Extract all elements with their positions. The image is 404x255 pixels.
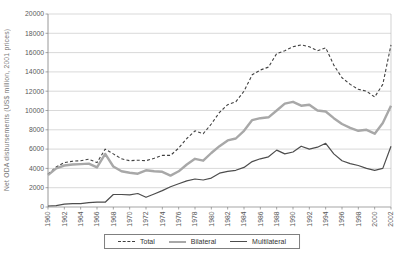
y-tick-label: 6000 bbox=[29, 145, 44, 152]
series-line-total bbox=[48, 45, 391, 174]
x-tick-label: 1976 bbox=[175, 211, 182, 226]
y-tick-label: 14000 bbox=[25, 68, 44, 75]
y-tick-label: 4000 bbox=[29, 165, 44, 172]
x-tick-label: 1984 bbox=[240, 211, 247, 226]
x-tick-label: 2002 bbox=[387, 211, 394, 226]
y-tick-label: 2000 bbox=[29, 184, 44, 191]
x-tick-label: 1974 bbox=[159, 211, 166, 226]
x-tick-label: 1994 bbox=[322, 211, 329, 226]
x-tick-label: 1972 bbox=[142, 211, 149, 226]
legend-item-bilateral: Bilateral bbox=[169, 237, 216, 246]
legend-label-total: Total bbox=[140, 237, 155, 246]
legend-label-multilateral: Multilateral bbox=[252, 237, 286, 246]
x-tick-label: 1996 bbox=[338, 211, 345, 226]
series-line-multilateral bbox=[48, 143, 391, 206]
x-tick-label: 1982 bbox=[224, 211, 231, 226]
legend-item-multilateral: Multilateral bbox=[230, 237, 286, 246]
legend-line-sample-bilateral bbox=[169, 241, 186, 243]
x-tick-label: 1986 bbox=[257, 211, 264, 226]
x-tick-label: 1968 bbox=[110, 211, 117, 226]
x-tick-label: 1966 bbox=[93, 211, 100, 226]
x-tick-label: 1978 bbox=[191, 211, 198, 226]
x-tick-label: 1964 bbox=[77, 211, 84, 226]
x-tick-label: 1980 bbox=[208, 211, 215, 226]
x-tick-label: 1988 bbox=[273, 211, 280, 226]
legend: TotalBilateralMultilateral bbox=[104, 234, 300, 249]
oda-line-chart: Net ODA disbursements (US$ million, 2001… bbox=[0, 0, 404, 255]
x-tick-label: 1998 bbox=[355, 211, 362, 226]
legend-item-total: Total bbox=[118, 237, 155, 246]
y-tick-label: 12000 bbox=[25, 88, 44, 95]
legend-label-bilateral: Bilateral bbox=[191, 237, 216, 246]
plot-area: 0200040006000800010000120001400016000180… bbox=[0, 0, 404, 255]
legend-line-sample-total bbox=[118, 241, 135, 242]
legend-line-sample-multilateral bbox=[230, 241, 247, 242]
y-tick-label: 18000 bbox=[25, 30, 44, 37]
y-tick-label: 16000 bbox=[25, 49, 44, 56]
x-tick-label: 1960 bbox=[44, 211, 51, 226]
x-tick-label: 1990 bbox=[289, 211, 296, 226]
x-tick-label: 1992 bbox=[306, 211, 313, 226]
x-tick-label: 1970 bbox=[126, 211, 133, 226]
y-tick-label: 0 bbox=[40, 203, 44, 210]
y-tick-label: 8000 bbox=[29, 126, 44, 133]
x-tick-label: 2000 bbox=[371, 211, 378, 226]
y-tick-label: 20000 bbox=[25, 10, 44, 17]
x-tick-label: 1962 bbox=[61, 211, 68, 226]
y-tick-label: 10000 bbox=[25, 107, 44, 114]
